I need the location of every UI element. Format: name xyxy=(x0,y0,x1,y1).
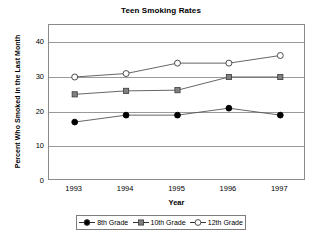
data-point xyxy=(175,88,180,93)
x-axis-tick-label: 1995 xyxy=(157,184,197,193)
y-axis-title: Percent Who Smoked in the Last Month xyxy=(14,22,21,182)
legend-item-8th-grade[interactable]: 8th Grade xyxy=(79,218,128,227)
plot-area xyxy=(48,24,305,180)
data-point xyxy=(72,92,77,97)
x-axis-tick-label: 1994 xyxy=(105,184,145,193)
legend-label: 10th Grade xyxy=(151,219,186,226)
data-point xyxy=(226,105,232,111)
data-point xyxy=(175,112,181,118)
legend-marker-filled-square-icon xyxy=(133,218,149,227)
data-point xyxy=(277,112,283,118)
series-8th-grade xyxy=(72,105,283,125)
data-point xyxy=(123,112,129,118)
y-axis-tick-label: 40 xyxy=(22,37,44,46)
series-layer xyxy=(49,25,306,181)
data-point xyxy=(277,53,283,59)
x-axis-tick-label: 1997 xyxy=(259,184,299,193)
chart-title: Teen Smoking Rates xyxy=(0,6,322,15)
legend-item-12th-grade[interactable]: 12th Grade xyxy=(190,218,243,227)
legend-label: 8th Grade xyxy=(97,219,128,226)
series-10th-grade xyxy=(72,74,283,97)
data-point xyxy=(278,74,283,79)
legend-label: 12th Grade xyxy=(208,219,243,226)
data-point xyxy=(72,74,78,80)
chart-legend: 8th Grade10th Grade12th Grade xyxy=(76,215,246,230)
y-axis-tick-label: 30 xyxy=(22,72,44,81)
x-axis-title: Year xyxy=(48,198,305,207)
legend-marker-filled-circle-icon xyxy=(79,218,95,227)
x-axis-tick-label: 1996 xyxy=(208,184,248,193)
teen-smoking-rates-chart: Teen Smoking Rates Percent Who Smoked in… xyxy=(0,0,322,239)
legend-item-10th-grade[interactable]: 10th Grade xyxy=(133,218,186,227)
x-axis-tick-label: 1993 xyxy=(54,184,94,193)
legend-marker-open-circle-icon xyxy=(190,218,206,227)
data-point xyxy=(72,119,78,125)
data-point xyxy=(226,74,231,79)
y-axis-tick-label: 20 xyxy=(22,107,44,116)
y-axis-tick-label: 0 xyxy=(22,176,44,185)
data-point xyxy=(124,88,129,93)
y-axis-tick-label: 10 xyxy=(22,141,44,150)
data-point xyxy=(175,60,181,66)
data-point xyxy=(123,71,129,77)
data-point xyxy=(226,60,232,66)
series-12th-grade xyxy=(72,53,284,80)
